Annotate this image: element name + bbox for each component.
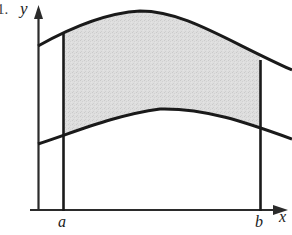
y-axis-arrow-icon [34, 5, 43, 19]
tick-label-a: a [58, 214, 66, 230]
y-axis [34, 5, 43, 210]
region-between-curves-figure: 1. y x a b [0, 0, 292, 235]
x-axis-label: x [279, 209, 286, 225]
shaded-region-fill [38, 11, 292, 144]
y-axis-label: y [20, 0, 28, 17]
figure-number: 1. [0, 2, 8, 17]
tick-label-b: b [255, 214, 263, 230]
figure-canvas [0, 0, 292, 235]
x-axis [30, 205, 288, 215]
shaded-region [38, 11, 292, 144]
